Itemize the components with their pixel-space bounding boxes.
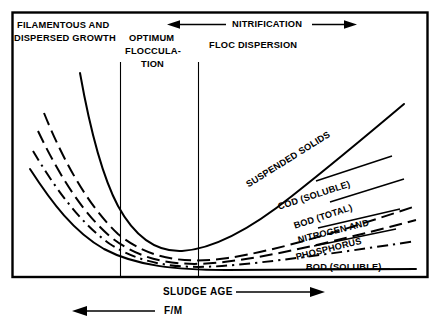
zone-label-optimum-line3: TION — [141, 59, 164, 71]
curve-label-bod-soluble: BOD (SOLUBLE) — [306, 262, 382, 272]
zone-label-floc-dispersion: FLOC DISPERSION — [209, 40, 297, 52]
axis-label-sludge-age: SLUDGE AGE — [163, 286, 233, 297]
axis-label-fm: F/M — [164, 305, 182, 316]
fm-arrow — [72, 306, 155, 316]
zone-label-filamentous-line1: FILAMENTOUS AND — [17, 20, 109, 32]
sludge-age-arrow — [236, 287, 325, 297]
annotation-nitrification: NITRIFICATION — [232, 19, 302, 31]
zone-label-optimum-line2: FLOCCULA- — [125, 46, 181, 58]
chart-frame — [13, 13, 428, 278]
chart-figure: FILAMENTOUS AND DISPERSED GROWTH OPTIMUM… — [0, 0, 441, 327]
zone-label-filamentous-line2: DISPERSED GROWTH — [14, 33, 116, 45]
curve-nitrogen-phosphorus — [33, 151, 416, 267]
zone-label-optimum-line1: OPTIMUM — [129, 33, 174, 45]
